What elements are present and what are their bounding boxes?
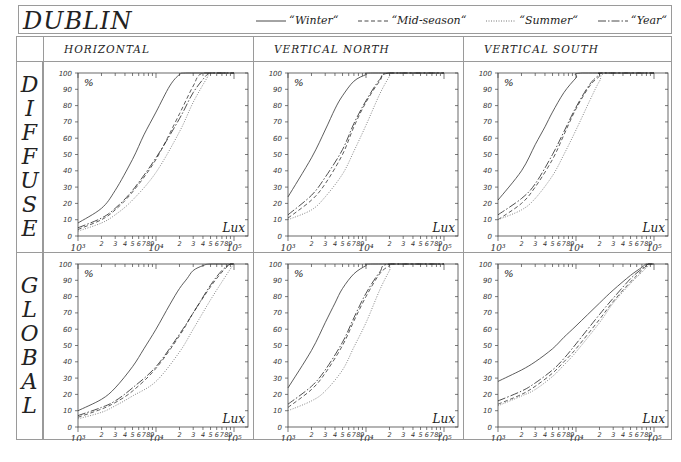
svg-text:6: 6 xyxy=(215,240,219,248)
svg-text:4: 4 xyxy=(201,431,205,439)
svg-text:3: 3 xyxy=(113,240,117,248)
series-summer xyxy=(288,264,444,411)
svg-text:80: 80 xyxy=(483,102,492,110)
svg-text:%: % xyxy=(84,268,94,279)
legend-label: “Winter“ xyxy=(289,14,338,27)
svg-text:40: 40 xyxy=(273,167,282,175)
svg-text:100: 100 xyxy=(59,261,73,269)
svg-text:3: 3 xyxy=(611,431,615,439)
svg-text:%: % xyxy=(294,268,304,279)
svg-text:3: 3 xyxy=(611,240,615,248)
svg-text:5: 5 xyxy=(208,431,212,439)
svg-text:40: 40 xyxy=(483,167,492,175)
series-year xyxy=(498,73,654,215)
legend: “Winter“ “Mid-season“ “Summer“ “Year“ xyxy=(256,14,667,27)
svg-text:4: 4 xyxy=(621,240,625,248)
chart-vertical-south-diffuse: 0102030405060708090100234567892345678910… xyxy=(463,61,672,253)
series-summer xyxy=(288,73,444,220)
svg-text:%: % xyxy=(504,268,514,279)
line-chart: 0102030405060708090100234567892345678910… xyxy=(254,62,465,254)
series-summer xyxy=(498,264,654,406)
svg-text:6: 6 xyxy=(137,431,141,439)
svg-text:90: 90 xyxy=(273,277,282,285)
svg-text:80: 80 xyxy=(273,293,282,301)
series-mid-season xyxy=(288,73,444,218)
svg-text:2: 2 xyxy=(99,240,103,248)
svg-text:90: 90 xyxy=(273,86,282,94)
svg-text:10: 10 xyxy=(273,407,282,415)
svg-text:6: 6 xyxy=(347,431,351,439)
svg-text:20: 20 xyxy=(483,391,492,399)
svg-text:0: 0 xyxy=(68,424,73,432)
svg-text:50: 50 xyxy=(63,151,72,159)
svg-text:30: 30 xyxy=(273,375,282,383)
svg-text:100: 100 xyxy=(479,261,493,269)
svg-text:40: 40 xyxy=(273,358,282,366)
column-header-horizontal: HORIZONTAL xyxy=(43,36,254,62)
svg-text:2: 2 xyxy=(99,431,103,439)
svg-text:10⁵: 10⁵ xyxy=(646,434,661,441)
svg-text:5: 5 xyxy=(340,431,344,439)
row-letter: F xyxy=(22,145,37,169)
series-year xyxy=(78,73,234,228)
svg-text:90: 90 xyxy=(63,277,72,285)
svg-text:5: 5 xyxy=(208,240,212,248)
series-winter xyxy=(288,73,444,197)
svg-text:Lux: Lux xyxy=(642,412,666,426)
svg-text:2: 2 xyxy=(177,240,181,248)
legend-label: “Year“ xyxy=(631,14,667,27)
svg-text:%: % xyxy=(84,77,94,88)
svg-text:30: 30 xyxy=(63,375,72,383)
svg-text:6: 6 xyxy=(425,240,429,248)
svg-text:4: 4 xyxy=(123,431,127,439)
svg-text:%: % xyxy=(504,77,514,88)
svg-text:6: 6 xyxy=(215,431,219,439)
svg-text:10: 10 xyxy=(273,216,282,224)
series-mid-season xyxy=(498,73,654,220)
svg-text:30: 30 xyxy=(273,184,282,192)
row-header-diffuse: D I F F U S E xyxy=(16,61,43,253)
svg-text:90: 90 xyxy=(483,86,492,94)
svg-text:5: 5 xyxy=(418,431,422,439)
svg-text:10⁴: 10⁴ xyxy=(568,434,583,441)
svg-text:5: 5 xyxy=(130,431,134,439)
svg-text:90: 90 xyxy=(483,277,492,285)
series-summer xyxy=(78,73,234,231)
svg-text:6: 6 xyxy=(557,240,561,248)
svg-text:2: 2 xyxy=(597,431,601,439)
svg-text:2: 2 xyxy=(309,240,313,248)
legend-item-winter: “Winter“ xyxy=(256,14,338,27)
svg-text:60: 60 xyxy=(63,326,72,334)
row-letter: L xyxy=(22,394,37,418)
svg-text:30: 30 xyxy=(483,375,492,383)
svg-text:4: 4 xyxy=(333,431,337,439)
svg-text:90: 90 xyxy=(63,86,72,94)
row-letter: S xyxy=(22,193,37,217)
svg-text:Lux: Lux xyxy=(432,412,456,426)
svg-text:10: 10 xyxy=(483,407,492,415)
series-winter xyxy=(78,73,234,223)
svg-text:100: 100 xyxy=(269,70,283,78)
legend-item-mid-season: “Mid-season“ xyxy=(358,14,466,27)
svg-text:Lux: Lux xyxy=(432,221,456,235)
svg-text:4: 4 xyxy=(621,431,625,439)
series-winter xyxy=(498,73,654,200)
svg-text:6: 6 xyxy=(425,431,429,439)
legend-label: “Mid-season“ xyxy=(391,14,466,27)
svg-text:5: 5 xyxy=(550,431,554,439)
series-year xyxy=(288,73,444,215)
chart-vertical-north-diffuse: 0102030405060708090100234567892345678910… xyxy=(253,61,464,253)
solid-line-icon xyxy=(256,18,286,24)
legend-item-summer: “Summer“ xyxy=(486,14,578,27)
line-chart: 0102030405060708090100234567892345678910… xyxy=(44,62,255,254)
svg-text:80: 80 xyxy=(273,102,282,110)
svg-text:6: 6 xyxy=(635,431,639,439)
svg-text:40: 40 xyxy=(63,358,72,366)
line-chart: 0102030405060708090100234567892345678910… xyxy=(254,253,465,441)
svg-text:10³: 10³ xyxy=(70,434,85,441)
svg-text:30: 30 xyxy=(483,184,492,192)
svg-text:5: 5 xyxy=(130,240,134,248)
svg-text:20: 20 xyxy=(63,200,72,208)
svg-text:0: 0 xyxy=(488,424,493,432)
dashdot-line-icon xyxy=(598,18,628,24)
